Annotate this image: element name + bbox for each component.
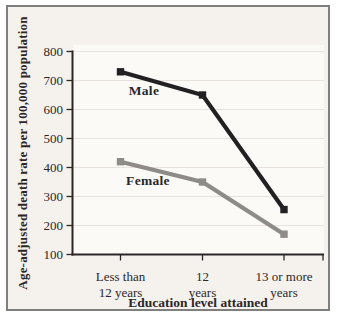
x-axis-title: Education level attained bbox=[128, 295, 268, 310]
male-series-marker bbox=[199, 91, 206, 98]
series-label-female: Female bbox=[126, 173, 170, 188]
plot-area bbox=[74, 45, 325, 255]
figure-page: 100200300400500600700800Less than12 year… bbox=[0, 0, 344, 330]
female-series-marker bbox=[280, 231, 287, 238]
male-series-marker bbox=[280, 206, 287, 213]
y-tick-label: 500 bbox=[44, 131, 64, 146]
y-tick-label: 100 bbox=[44, 247, 64, 262]
y-tick-label: 200 bbox=[44, 218, 64, 233]
x-tick-label: 12 bbox=[196, 269, 209, 284]
male-series-marker bbox=[117, 68, 124, 75]
series-label-male: Male bbox=[129, 83, 159, 98]
y-tick-label: 600 bbox=[44, 102, 64, 117]
female-series-marker bbox=[117, 158, 124, 165]
x-tick-label: Less than bbox=[96, 269, 146, 284]
y-axis-title: Age-adjusted death rate per 100,000 popu… bbox=[15, 16, 30, 290]
female-series-marker bbox=[199, 178, 206, 185]
y-tick-label: 400 bbox=[44, 160, 64, 175]
y-tick-label: 300 bbox=[44, 189, 64, 204]
death-rate-by-education-line-chart: 100200300400500600700800Less than12 year… bbox=[0, 0, 344, 330]
y-tick-label: 800 bbox=[44, 44, 64, 59]
x-tick-label: years bbox=[270, 285, 297, 300]
y-tick-label: 700 bbox=[44, 73, 64, 88]
x-tick-label: 13 or more bbox=[255, 269, 312, 284]
